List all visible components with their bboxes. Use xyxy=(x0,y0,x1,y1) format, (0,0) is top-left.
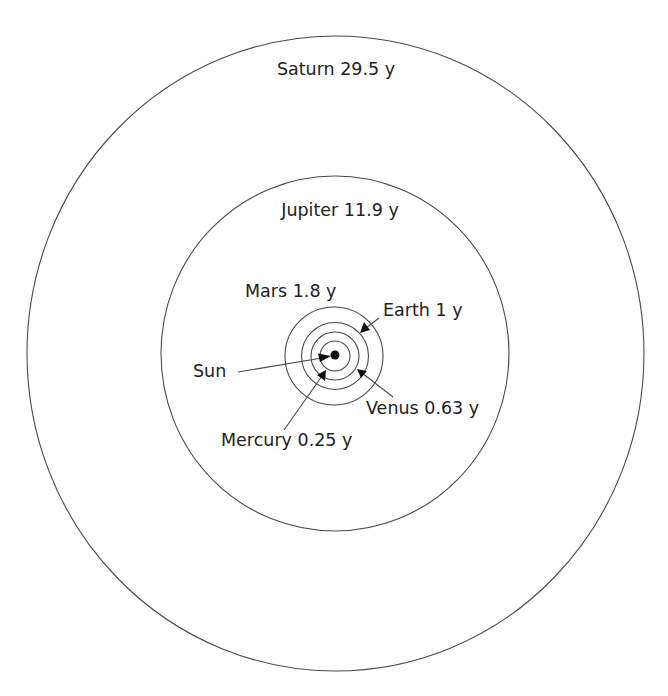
label-jupiter: Jupiter 11.9 y xyxy=(280,200,399,220)
solar-system-diagram: Saturn 29.5 y Jupiter 11.9 y Mars 1.8 y … xyxy=(0,0,668,696)
orbit-canvas: Saturn 29.5 y Jupiter 11.9 y Mars 1.8 y … xyxy=(0,0,668,696)
sun-dot xyxy=(331,351,340,360)
label-mars: Mars 1.8 y xyxy=(245,281,336,301)
label-earth: Earth 1 y xyxy=(383,300,463,320)
venus-pointer xyxy=(357,369,393,397)
label-saturn: Saturn 29.5 y xyxy=(277,59,395,79)
label-sun: Sun xyxy=(193,361,226,381)
label-mercury: Mercury 0.25 y xyxy=(221,430,352,450)
label-venus: Venus 0.63 y xyxy=(366,398,479,418)
